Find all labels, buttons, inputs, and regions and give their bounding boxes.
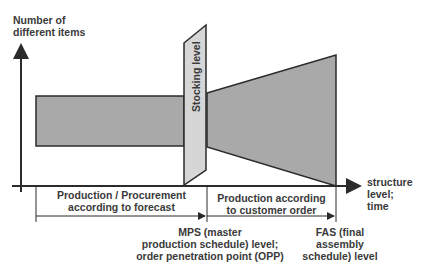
y-axis-label: Number of different items	[13, 14, 85, 38]
customer-order-block	[207, 55, 336, 186]
forecast-production-block	[36, 96, 184, 146]
forecast-phase-label: Production / Procurement according to fo…	[36, 189, 207, 213]
x-axis-label: structure level; time	[367, 176, 413, 212]
mps-level-label: MPS (master production schedule) level; …	[120, 226, 300, 262]
fas-level-label: FAS (final assembly schedule) level	[290, 226, 390, 262]
stocking-level-label: Stocking level	[190, 32, 202, 112]
diagram-canvas: Number of different items Stocking level…	[0, 0, 423, 266]
order-phase-label: Production according to customer order	[207, 192, 336, 216]
